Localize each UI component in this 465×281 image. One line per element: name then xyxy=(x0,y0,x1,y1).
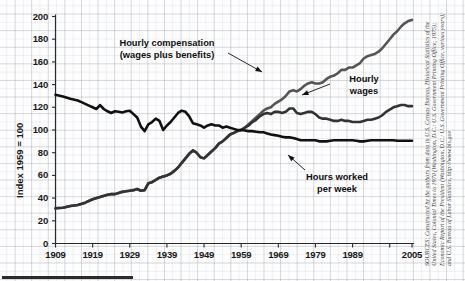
bottom-rule xyxy=(2,276,133,279)
annotation-hours-worked: Hours worked per week xyxy=(290,172,384,195)
y-tick-label: 20 xyxy=(22,215,48,226)
annotation-line-2: wages xyxy=(333,86,395,98)
x-tick-label: 1969 xyxy=(258,249,298,260)
figure-root: Index 1959 = 100 02040608010012014016018… xyxy=(0,0,465,281)
y-tick-label: 80 xyxy=(22,147,48,158)
leader-hourly-wages-head xyxy=(302,90,309,95)
y-tick-label: 40 xyxy=(22,192,48,203)
y-tick-label: 140 xyxy=(22,79,48,90)
annotation-hourly-compensation: Hourly compensation (wages plus benefits… xyxy=(92,38,242,61)
y-tick-label: 0 xyxy=(22,238,48,249)
series-hours-worked xyxy=(56,95,413,142)
x-tick-label: 1939 xyxy=(147,249,187,260)
x-tick-label: 1919 xyxy=(73,249,113,260)
x-tick-label: 1989 xyxy=(333,249,373,260)
x-tick-label: 1979 xyxy=(295,249,335,260)
x-tick-label: 1949 xyxy=(184,249,224,260)
annotation-line-1: Hourly xyxy=(333,74,395,86)
annotation-line-2: per week xyxy=(290,184,384,196)
y-tick-label: 60 xyxy=(22,169,48,180)
y-tick-label: 200 xyxy=(22,11,48,22)
x-tick-label: 1929 xyxy=(110,249,150,260)
leader-hourly-compensation-head xyxy=(255,67,262,72)
annotation-line-1: Hourly compensation xyxy=(92,38,242,50)
x-tick-label: 1909 xyxy=(36,249,76,260)
y-tick-label: 180 xyxy=(22,33,48,44)
y-tick-label: 100 xyxy=(22,124,48,135)
x-tick-label: 1959 xyxy=(221,249,261,260)
annotation-line-2: (wages plus benefits) xyxy=(92,50,242,62)
annotation-line-1: Hours worked xyxy=(290,172,384,184)
source-note: SOURCES: Constructed by the authors from… xyxy=(424,8,462,266)
annotation-hourly-wages: Hourly wages xyxy=(333,74,395,97)
y-tick-label: 120 xyxy=(22,101,48,112)
y-tick-label: 160 xyxy=(22,56,48,67)
